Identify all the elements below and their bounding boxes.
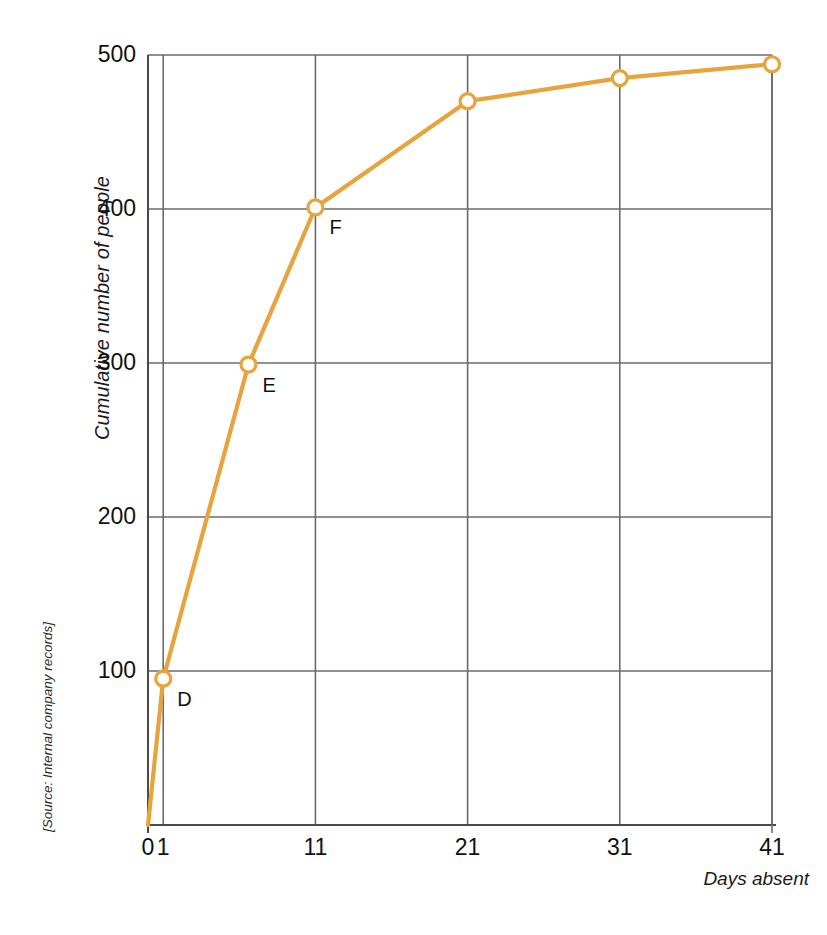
x-tick-label: 41 (759, 836, 785, 859)
x-tick-label: 31 (607, 836, 633, 859)
data-point-marker (308, 200, 323, 215)
data-point-marker (460, 94, 475, 109)
x-tick-label: 1 (157, 836, 170, 859)
x-tick-label: 0 (142, 836, 155, 859)
x-tick-label: 21 (455, 836, 481, 859)
grid-lines (148, 55, 772, 825)
series-line (148, 64, 772, 825)
point-annotation: D (177, 689, 191, 709)
point-annotation: F (329, 217, 341, 237)
data-point-marker (241, 357, 256, 372)
data-point-marker (612, 71, 627, 86)
series-polyline (148, 64, 772, 825)
axis-lines (148, 55, 776, 833)
x-tick-label: 11 (303, 836, 327, 859)
point-annotation: E (262, 375, 275, 395)
data-point-marker (156, 671, 171, 686)
chart-container: Cumulative number of people [Source: Int… (0, 0, 827, 935)
data-point-marker (765, 57, 780, 72)
plot-area (0, 0, 827, 935)
